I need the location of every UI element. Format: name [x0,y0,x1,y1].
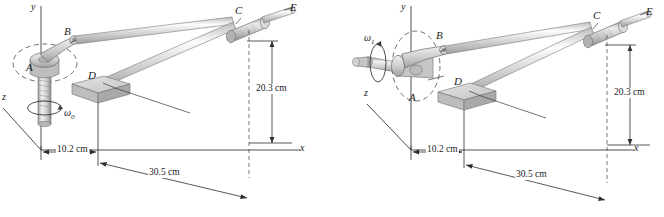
point-label-C: C [593,10,600,21]
dimension-label-10-2: 10.2 cm [56,145,89,155]
panel-left-drawing [0,0,332,217]
panel-vertical-shaft: y z x A B C D E ω0 10.2 cm 30.5 cm 20.3 … [0,0,332,217]
slider-block-D [72,76,130,103]
point-label-E: E [646,6,653,17]
dimension-label-20-3: 20.3 cm [255,84,288,94]
axis-label-z: z [364,88,368,98]
dimension-label-20-3: 20.3 cm [613,88,646,98]
point-label-A: A [409,92,416,103]
point-label-C: C [235,5,242,16]
dimension-label-10-2: 10.2 cm [426,145,459,155]
dimension-label-30-5: 30.5 cm [148,168,181,178]
mechanism-figure: y z x A B C D E ω0 10.2 cm 30.5 cm 20.3 … [0,0,664,217]
point-label-D: D [454,76,462,87]
dimension-10-2 [411,110,464,168]
axis-label-z: z [2,92,6,102]
axis-label-x: x [300,143,304,153]
dimension-label-30-5: 30.5 cm [515,170,548,180]
point-label-A: A [26,62,33,73]
axis-label-x: x [634,143,638,153]
omega-label: ω0 [64,108,75,121]
point-label-E: E [290,2,297,13]
axis-label-y: y [31,2,35,12]
panel-right-drawing [332,0,664,217]
omega-label: ω1 [364,33,375,46]
slider-block-D [438,83,496,110]
crank-arm-AB [40,36,78,62]
drive-shaft-vertical [38,72,51,127]
axis-label-y: y [401,2,405,12]
point-label-D: D [88,70,96,81]
panel-horizontal-shaft: y z x A B C D E ω1 10.2 cm 30.5 cm 20.3 … [332,0,664,217]
point-label-B: B [64,26,71,37]
point-label-B: B [436,30,443,41]
